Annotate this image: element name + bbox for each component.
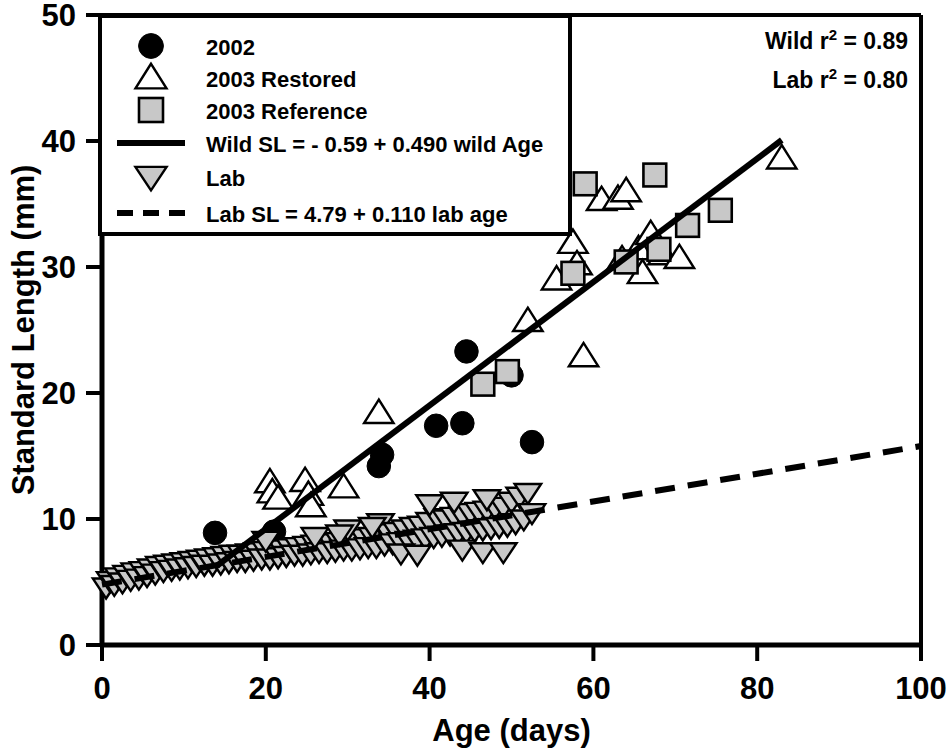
- data-point: [709, 199, 732, 222]
- x-tick-label-100: 100: [895, 671, 947, 706]
- legend-label-4: Lab: [206, 166, 245, 191]
- lab-r-squared-annotation-prefix: Lab r: [772, 67, 828, 93]
- y-tick-label-20: 20: [42, 376, 76, 411]
- legend-gray-square-icon: [139, 98, 163, 122]
- x-tick-label-0: 0: [93, 671, 110, 706]
- lab-r-squared-annotation-value: = 0.80: [837, 67, 908, 93]
- y-tick-label-10: 10: [42, 502, 76, 537]
- legend-label-3: Wild SL = - 0.59 + 0.490 wild Age: [206, 132, 543, 157]
- chart-figure: 01020304050020406080100 20022003 Restore…: [0, 0, 949, 753]
- data-point: [520, 430, 544, 454]
- lab-r-squared-annotation: Lab r2 = 0.80: [772, 65, 908, 93]
- lab-r-squared-annotation-exponent: 2: [829, 65, 837, 82]
- data-point: [424, 414, 448, 438]
- legend-label-0: 2002: [206, 35, 255, 60]
- data-point: [203, 521, 227, 545]
- y-tick-label-30: 30: [42, 250, 76, 285]
- y-tick-label-50: 50: [42, 0, 76, 33]
- x-axis-title: Age (days): [432, 713, 590, 748]
- data-point: [562, 262, 585, 285]
- x-tick-label-80: 80: [740, 671, 774, 706]
- wild-r-squared-annotation-exponent: 2: [829, 26, 837, 43]
- y-tick-label-0: 0: [59, 628, 76, 663]
- y-axis-title: Standard Length (mm): [6, 165, 41, 496]
- wild-r-squared-annotation: Wild r2 = 0.89: [765, 26, 908, 54]
- legend-filled-circle-icon: [139, 34, 164, 59]
- data-point: [643, 164, 666, 187]
- x-tick-label-20: 20: [249, 671, 283, 706]
- x-tick-label-60: 60: [576, 671, 610, 706]
- scatter-plot: 01020304050020406080100 20022003 Restore…: [0, 0, 949, 753]
- y-tick-label-40: 40: [42, 124, 76, 159]
- wild-r-squared-annotation-value: = 0.89: [837, 28, 908, 54]
- data-point: [471, 373, 494, 396]
- data-point: [496, 360, 519, 383]
- legend-box: 20022003 Restored2003 ReferenceWild SL =…: [100, 16, 570, 234]
- legend-label-1: 2003 Restored: [206, 67, 356, 92]
- data-point: [455, 340, 479, 364]
- legend-label-5: Lab SL = 4.79 + 0.110 lab age: [206, 202, 508, 227]
- x-tick-label-40: 40: [412, 671, 446, 706]
- data-point: [574, 172, 597, 195]
- data-point: [451, 411, 475, 435]
- wild-r-squared-annotation-prefix: Wild r: [765, 28, 829, 54]
- legend-label-2: 2003 Reference: [206, 99, 367, 124]
